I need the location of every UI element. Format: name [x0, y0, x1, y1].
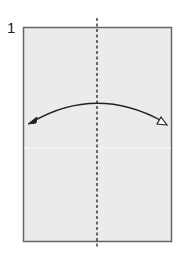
origami-diagram [0, 0, 182, 257]
